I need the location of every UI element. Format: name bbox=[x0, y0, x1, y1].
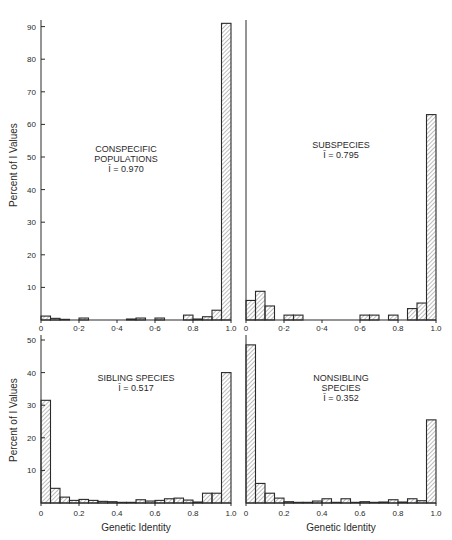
histogram-bar bbox=[408, 309, 418, 320]
x-tick-label: 0·6 bbox=[354, 324, 366, 333]
x-tick-label: 1.0 bbox=[225, 509, 237, 518]
y-tick-label: 50 bbox=[27, 153, 36, 162]
x-tick-label: 0 bbox=[244, 324, 249, 333]
y-axis-label-top: Percent of I Values bbox=[8, 123, 19, 207]
histogram-bar bbox=[212, 310, 222, 320]
y-tick-label: 30 bbox=[27, 401, 36, 410]
panel-title-line: CONSPECIFIC bbox=[95, 144, 157, 154]
panel-title-line: SUBSPECIES bbox=[312, 140, 370, 150]
y-tick-label: 10 bbox=[27, 466, 36, 475]
histogram-bar bbox=[322, 499, 332, 503]
histogram-bar bbox=[408, 499, 418, 503]
panel-conspecific: 10203040506070809000·20·40·60.81.0CONSPE… bbox=[27, 20, 237, 333]
histogram-bar bbox=[51, 488, 61, 503]
histogram-bar bbox=[222, 23, 232, 320]
x-tick-label: 0.4 bbox=[316, 509, 328, 518]
x-tick-label: 1.0 bbox=[225, 324, 237, 333]
panel-title-line: Ī = 0.795 bbox=[323, 150, 358, 160]
x-tick-label: 0·4 bbox=[111, 324, 123, 333]
x-tick-label: 0.6 bbox=[354, 509, 366, 518]
x-tick-label: 0.8 bbox=[187, 324, 199, 333]
histogram-bar bbox=[294, 315, 304, 320]
y-tick-label: 30 bbox=[27, 218, 36, 227]
panel-title-line: SPECIES bbox=[321, 383, 360, 393]
histogram-bar bbox=[246, 345, 256, 503]
y-tick-label: 40 bbox=[27, 186, 36, 195]
y-tick-label: 10 bbox=[27, 283, 36, 292]
y-axis-label-bottom: Percent of I Values bbox=[8, 378, 19, 462]
x-axis-label-left: Genetic Identity bbox=[101, 522, 170, 533]
histogram-bar bbox=[222, 373, 232, 503]
panel-subspecies: 00·20·40·60.81.0SUBSPECIESĪ = 0.795 bbox=[244, 20, 442, 333]
histogram-bar bbox=[341, 499, 351, 503]
x-tick-label: 0·6 bbox=[149, 324, 161, 333]
histogram-bar bbox=[184, 315, 194, 320]
histogram-bar bbox=[265, 306, 275, 320]
histogram-bar bbox=[417, 303, 427, 320]
histogram-bar bbox=[265, 493, 275, 503]
panel-title-line: POPULATIONS bbox=[94, 154, 157, 164]
histogram-bar bbox=[165, 499, 175, 503]
panel-nonsibling: 00.20.40.60.81.0NONSIBLINGSPECIESĪ = 0.3… bbox=[244, 335, 442, 518]
panel-title-line: Ī = 0.517 bbox=[118, 383, 153, 393]
x-tick-label: 1.0 bbox=[430, 509, 442, 518]
panel-title-line: NONSIBLING bbox=[313, 373, 369, 383]
y-tick-label: 20 bbox=[27, 251, 36, 260]
y-tick-label: 50 bbox=[27, 336, 36, 345]
x-tick-label: 1.0 bbox=[430, 324, 442, 333]
histogram-bar bbox=[246, 300, 256, 320]
x-tick-label: 0·4 bbox=[316, 324, 328, 333]
x-tick-label: 0 bbox=[244, 509, 249, 518]
panel-title-line: Ī = 0.352 bbox=[323, 393, 358, 403]
histogram-bar bbox=[360, 315, 370, 320]
histogram-bar bbox=[256, 291, 266, 320]
histogram-bar bbox=[256, 483, 266, 503]
y-tick-label: 40 bbox=[27, 369, 36, 378]
histogram-bar bbox=[284, 315, 294, 320]
x-tick-label: 0.6 bbox=[149, 509, 161, 518]
histogram-bar bbox=[41, 400, 51, 503]
x-tick-label: 0.2 bbox=[278, 509, 290, 518]
panel-title-line: SIBLING SPECIES bbox=[97, 373, 174, 383]
y-tick-label: 90 bbox=[27, 23, 36, 32]
panel-sibling: 102030405000.20.40.60.81.0SIBLING SPECIE… bbox=[27, 335, 237, 518]
x-tick-label: 0·2 bbox=[73, 324, 85, 333]
histogram-bar bbox=[427, 420, 437, 503]
histogram-bar bbox=[427, 115, 437, 320]
histogram-bar bbox=[212, 493, 222, 503]
panel-title-line: Ī = 0.970 bbox=[108, 164, 143, 174]
x-tick-label: 0.8 bbox=[187, 509, 199, 518]
histogram-figure: Percent of I Values Percent of I Values … bbox=[0, 0, 452, 540]
x-tick-label: 0.2 bbox=[73, 509, 85, 518]
y-tick-label: 60 bbox=[27, 120, 36, 129]
histogram-bar bbox=[389, 315, 399, 320]
x-tick-label: 0.8 bbox=[392, 324, 404, 333]
histogram-bar bbox=[203, 493, 213, 503]
histogram-bar bbox=[174, 498, 184, 503]
x-tick-label: 0 bbox=[39, 509, 44, 518]
x-tick-label: 0.8 bbox=[392, 509, 404, 518]
y-tick-label: 20 bbox=[27, 434, 36, 443]
x-tick-label: 0.4 bbox=[111, 509, 123, 518]
histogram-bar bbox=[60, 497, 70, 503]
y-tick-label: 80 bbox=[27, 55, 36, 64]
x-tick-label: 0·2 bbox=[278, 324, 290, 333]
x-axis-label-right: Genetic Identity bbox=[306, 522, 375, 533]
histogram-bar bbox=[275, 498, 285, 503]
x-tick-label: 0 bbox=[39, 324, 44, 333]
histogram-bar bbox=[370, 315, 380, 320]
y-tick-label: 70 bbox=[27, 88, 36, 97]
